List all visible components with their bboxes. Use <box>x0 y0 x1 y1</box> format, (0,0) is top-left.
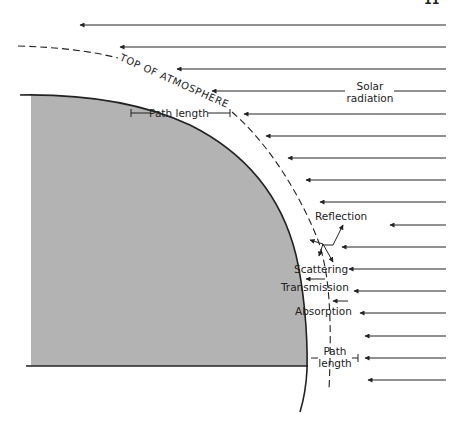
reflection-arrows <box>322 225 343 245</box>
path-length-top-label: Path length <box>149 107 209 119</box>
page-number: 11 <box>424 0 439 7</box>
path-length-bottom-label: Path <box>323 345 346 357</box>
absorption-label: Absorption <box>295 305 352 317</box>
atmosphere-path-length-diagram: 11 TOP OF ATMOSPHERE Solar radiation <box>0 0 459 428</box>
scattering-label: Scattering <box>294 263 348 275</box>
reflection-label: Reflection <box>315 210 367 222</box>
solar-radiation-label: Solar <box>357 80 384 92</box>
top-of-atmosphere-label: TOP OF ATMOSPHERE <box>117 51 231 110</box>
transmission-label: Transmission <box>280 281 349 293</box>
path-length-bottom-label-line2: length <box>318 357 351 369</box>
solar-radiation-label-line2: radiation <box>347 92 394 104</box>
